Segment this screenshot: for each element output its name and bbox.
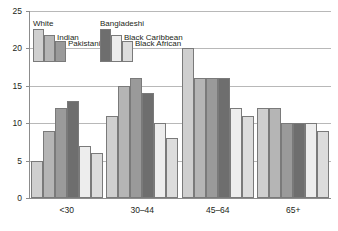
bar-30-black-african [91,153,103,198]
bar-3044-indian [118,86,130,198]
legend-label-bangladeshi: Bangladeshi [100,20,144,28]
legend-swatch-black-caribbean [111,35,122,62]
y-tick-mark-0 [26,198,29,199]
y-tick-label-0: 0 [0,194,22,203]
bar-4564-bangladeshi [218,78,230,198]
bar-30-bangladeshi [67,101,79,198]
legend-swatch-indian [44,35,55,62]
bar-4564-black-african [242,116,254,198]
bar-4564-pakistani [206,78,218,198]
bar-4564-black-caribbean [230,108,242,198]
y-tick-label-5: 5 [0,157,22,166]
bar-3044-pakistani [130,78,142,198]
y-tick-label-20: 20 [0,44,22,53]
bar-65-black-caribbean [305,123,317,198]
bar-3044-black-african [166,138,178,198]
bar-65-indian [269,108,281,198]
legend-swatch-pakistani [55,41,66,62]
bar-65-pakistani [281,123,293,198]
y-tick-label-10: 10 [0,119,22,128]
bar-4564-white [182,48,194,198]
legend-swatch-black-african [122,41,133,62]
bar-3044-bangladeshi [142,93,154,198]
bar-4564-indian [194,78,206,198]
x-tick-label-3044: 30–44 [105,206,181,215]
legend-label-black-african: Black African [135,40,181,48]
bar-3044-black-caribbean [154,123,166,198]
y-tick-label-15: 15 [0,82,22,91]
x-tick-label-30: <30 [29,206,105,215]
bar-65-white [257,108,269,198]
y-tick-label-25: 25 [0,7,22,16]
bar-65-black-african [317,131,329,198]
x-tick-label-65: 65+ [256,206,332,215]
legend-swatch-white [33,29,44,62]
bar-65-bangladeshi [293,123,305,198]
bar-30-black-caribbean [79,146,91,198]
grouped-bar-chart: 0510152025 <3030–4445–6465+ WhiteIndianP… [0,0,338,231]
bar-30-pakistani [55,108,67,198]
bar-30-indian [43,131,55,198]
bar-3044-white [106,116,118,198]
x-axis-line [29,198,331,199]
legend-swatch-bangladeshi [100,29,111,62]
x-tick-label-4564: 45–64 [180,206,256,215]
legend-label-white: White [33,20,53,28]
bar-30-white [31,161,43,198]
legend-label-pakistani: Pakistani [68,40,100,48]
